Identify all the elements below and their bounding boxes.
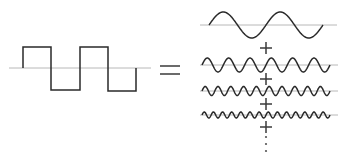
equals-sign bbox=[160, 66, 180, 74]
harmonic-series bbox=[200, 12, 338, 118]
square-wave-line bbox=[23, 47, 136, 91]
plus-icon bbox=[260, 42, 272, 54]
harmonic-5-wave bbox=[202, 87, 330, 96]
fourier-diagram bbox=[0, 0, 345, 154]
plus-icon bbox=[260, 121, 272, 133]
ellipsis-icon bbox=[265, 136, 267, 152]
plus-icon bbox=[260, 73, 272, 85]
plus-icon bbox=[260, 98, 272, 110]
square-wave bbox=[9, 47, 151, 91]
